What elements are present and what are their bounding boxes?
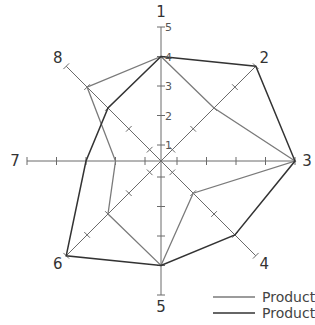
- axis-label-4: 4: [259, 255, 269, 273]
- axis-label-1: 1: [156, 3, 166, 21]
- tick-label-5: 5: [165, 21, 172, 34]
- tick-label-3: 3: [165, 80, 172, 93]
- tick-label-4: 4: [165, 51, 172, 64]
- legend-label-product-1: Product 1: [262, 289, 315, 305]
- axis-label-2: 2: [259, 49, 269, 67]
- radar-chart: 1234567812345 Product 1 Product 2: [0, 0, 315, 325]
- axis-4: [161, 161, 256, 256]
- axis-8: [66, 66, 161, 161]
- axis-2: [161, 66, 256, 161]
- tick-label-2: 2: [165, 110, 172, 123]
- tick-label-1: 1: [165, 139, 172, 152]
- legend-label-product-2: Product 2: [262, 305, 315, 321]
- axis-label-5: 5: [156, 298, 166, 316]
- legend: Product 1 Product 2: [213, 289, 315, 321]
- axis-label-8: 8: [53, 49, 63, 67]
- radar-axes: [27, 27, 295, 295]
- axis-label-3: 3: [302, 152, 312, 170]
- axis-label-7: 7: [10, 152, 20, 170]
- axis-label-6: 6: [53, 255, 63, 273]
